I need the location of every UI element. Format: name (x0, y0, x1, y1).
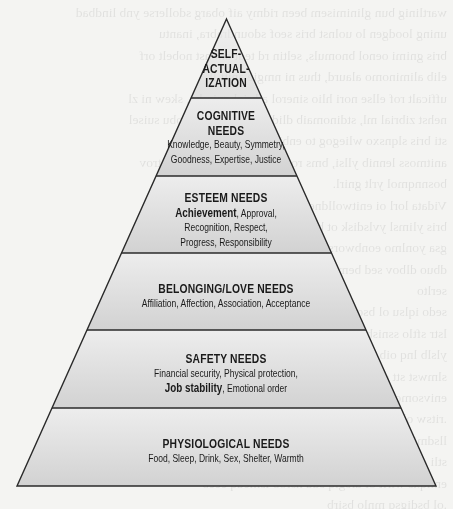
level-esteem: ESTEEM NEEDS Achievement, Approval, Reco… (152, 191, 300, 250)
level-items-text: , Emotional order (222, 383, 287, 394)
level-title-line: COGNITIVE (160, 109, 291, 124)
level-items-line: Goodness, Expertise, Justice (160, 153, 291, 168)
level-title-line: IZATION (185, 76, 267, 91)
level-safety: SAFETY NEEDS Financial security, Physica… (119, 352, 332, 397)
level-title-line: SELF- (185, 47, 267, 62)
level-items-line: Financial security, Physical protection, (119, 367, 332, 382)
level-cognitive: COGNITIVE NEEDS Knowledge, Beauty, Symme… (160, 109, 291, 167)
level-items-line: Food, Sleep, Drink, Sex, Shelter, Warmth (103, 452, 349, 467)
level-title-line: BELONGING/LOVE NEEDS (119, 282, 332, 297)
level-title-line: ACTUAL- (185, 62, 267, 77)
emphasized-item: Job stability (165, 381, 222, 395)
level-self-actualization: SELF- ACTUAL- IZATION (185, 47, 267, 91)
level-items-line: Progress, Responsibility (152, 236, 300, 251)
level-items-line: Affiliation, Affection, Association, Acc… (119, 297, 332, 312)
level-belonging-love: BELONGING/LOVE NEEDS Affiliation, Affect… (119, 282, 332, 311)
level-items-line: Achievement, Approval, (152, 206, 300, 222)
emphasized-item: Achievement (175, 206, 236, 220)
level-physiological: PHYSIOLOGICAL NEEDS Food, Sleep, Drink, … (103, 437, 349, 466)
level-title-line: SAFETY NEEDS (119, 352, 332, 367)
level-title-line: PHYSIOLOGICAL NEEDS (103, 437, 349, 452)
level-items-line: Recognition, Respect, (152, 221, 300, 236)
level-items-line: Knowledge, Beauty, Symmetry, (160, 138, 291, 153)
level-title-line: NEEDS (160, 124, 291, 139)
level-items-text: , Approval, (236, 208, 276, 219)
level-title-line: ESTEEM NEEDS (152, 191, 300, 206)
level-items-line: Job stability, Emotional order (119, 381, 332, 397)
